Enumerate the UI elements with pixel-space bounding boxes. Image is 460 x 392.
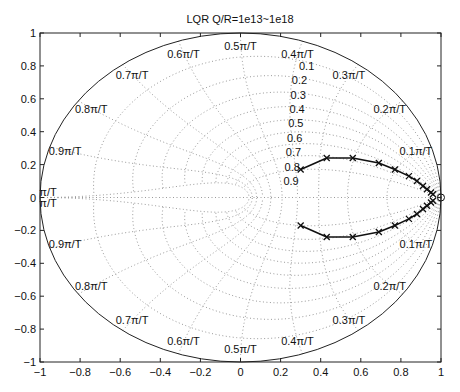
frequency-label: 0.2π/T xyxy=(373,280,406,292)
frequency-label: 0.3π/T xyxy=(333,314,366,326)
frequency-label: 0.1π/T xyxy=(400,145,433,157)
frequency-curve xyxy=(319,64,359,196)
frequency-curve xyxy=(241,198,283,362)
damping-label: 0.4 xyxy=(289,103,304,115)
damping-label: 0.9 xyxy=(283,175,298,187)
frequency-curve xyxy=(319,198,359,330)
damping-curve xyxy=(202,198,441,276)
pole-marker xyxy=(414,178,420,184)
y-tick-label: 0.6 xyxy=(21,93,36,105)
frequency-curve xyxy=(40,198,249,213)
frequency-label: 0.7π/T xyxy=(116,314,149,326)
damping-curve xyxy=(216,198,441,264)
damping-label: 0.1 xyxy=(299,60,314,72)
frequency-label: π/T xyxy=(39,197,57,209)
x-tick-label: −0.4 xyxy=(149,366,171,378)
chart-title: LQR Q/R=1e13~1e18 xyxy=(186,13,293,25)
damping-curve xyxy=(216,132,441,198)
x-tick-label: −0.6 xyxy=(109,366,131,378)
frequency-label: 0.2π/T xyxy=(373,103,406,115)
y-tick-label: 1 xyxy=(30,27,36,39)
y-tick-label: −0.4 xyxy=(14,257,36,269)
y-tick-label: 0.2 xyxy=(21,159,36,171)
frequency-label: 0.1π/T xyxy=(400,238,433,250)
pole-marker xyxy=(406,173,412,179)
x-tick-label: 0 xyxy=(237,366,243,378)
zgrid: 0.10.20.30.40.50.60.70.80.90.1π/T0.2π/T0… xyxy=(39,33,441,362)
y-tick-label: 0.8 xyxy=(21,60,36,72)
pole-trajectory-line xyxy=(301,201,433,237)
pole-marker xyxy=(298,222,304,228)
frequency-label: 0.8π/T xyxy=(75,280,108,292)
pole-trajectory-line xyxy=(301,158,433,194)
y-tick-label: −1 xyxy=(23,356,36,368)
frequency-label: π/T xyxy=(39,186,57,198)
damping-label: 0.5 xyxy=(288,117,303,129)
frequency-label: 0.6π/T xyxy=(167,335,200,347)
pole-marker xyxy=(414,211,420,217)
y-tick-label: 0 xyxy=(30,192,36,204)
pole-marker xyxy=(430,198,436,204)
x-tick-label: 1 xyxy=(438,366,444,378)
frequency-curve xyxy=(290,198,303,354)
damping-curve xyxy=(133,198,441,320)
frequency-label: 0.8π/T xyxy=(75,103,108,115)
frequency-label: 0.5π/T xyxy=(224,40,257,52)
x-tick-label: 0.6 xyxy=(353,366,368,378)
frequency-label: 0.9π/T xyxy=(49,238,82,250)
damping-label: 0.2 xyxy=(292,74,307,86)
damping-label: 0.3 xyxy=(291,89,306,101)
x-tick-label: 0.2 xyxy=(273,366,288,378)
damping-label: 0.7 xyxy=(286,146,301,158)
damping-label: 0.6 xyxy=(287,132,302,144)
x-tick-label: −0.2 xyxy=(190,366,212,378)
pole-marker xyxy=(406,216,412,222)
frequency-label: 0.5π/T xyxy=(224,343,257,355)
frequency-curve xyxy=(78,101,256,197)
y-tick-label: −0.8 xyxy=(14,323,36,335)
y-tick-label: −0.2 xyxy=(14,224,36,236)
y-tick-label: 0.4 xyxy=(21,126,36,138)
frequency-label: 0.4π/T xyxy=(281,48,314,60)
frequency-label: 0.9π/T xyxy=(49,145,82,157)
x-tick-label: 0.4 xyxy=(313,366,328,378)
frequency-curve xyxy=(241,33,283,197)
x-tick-label: −0.8 xyxy=(69,366,91,378)
frequency-curve xyxy=(123,198,263,331)
damping-curve xyxy=(202,120,441,198)
frequency-curve xyxy=(40,183,249,198)
frequency-label: 0.6π/T xyxy=(167,48,200,60)
root-locus-chart: 0.10.20.30.40.50.60.70.80.90.1π/T0.2π/T0… xyxy=(0,0,460,392)
frequency-curve xyxy=(347,101,402,197)
frequency-label: 0.7π/T xyxy=(116,69,149,81)
x-tick-label: 0.8 xyxy=(393,366,408,378)
frequency-label: 0.3π/T xyxy=(333,69,366,81)
frequency-label: 0.4π/T xyxy=(281,335,314,347)
frequency-curve xyxy=(123,64,263,197)
y-tick-label: −0.6 xyxy=(14,290,36,302)
pole-marker xyxy=(430,191,436,197)
